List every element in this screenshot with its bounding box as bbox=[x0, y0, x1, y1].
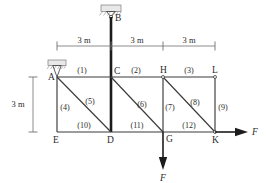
member-label-4: (4) bbox=[60, 103, 70, 112]
member-label-9: (9) bbox=[218, 103, 228, 112]
dim-label-span-1: 3 m bbox=[78, 35, 91, 45]
node-label-g: G bbox=[166, 134, 173, 144]
support-a-hatching bbox=[47, 66, 66, 70]
node-label-d: D bbox=[107, 135, 114, 145]
force-label-g: F bbox=[159, 173, 166, 183]
member-label-8: (8) bbox=[190, 98, 200, 107]
force-g-arrowhead bbox=[159, 157, 167, 170]
member-label-2: (2) bbox=[131, 66, 141, 75]
support-a-block bbox=[48, 60, 66, 66]
force-arrow-k-right bbox=[215, 128, 248, 136]
member-label-1: (1) bbox=[77, 66, 87, 75]
member-label-6: (6) bbox=[137, 100, 147, 109]
node-label-c: C bbox=[114, 66, 120, 76]
dim-label-height: 3 m bbox=[12, 99, 25, 109]
node-label-e: E bbox=[53, 135, 59, 145]
dim-label-span-3: 3 m bbox=[183, 35, 196, 45]
node-label-k: K bbox=[212, 135, 219, 145]
member-label-12: (12) bbox=[182, 121, 196, 130]
joint-h bbox=[162, 76, 165, 79]
vertical-dimension-line bbox=[29, 77, 38, 132]
node-label-l: L bbox=[212, 65, 218, 75]
joint-l bbox=[214, 76, 217, 79]
dim-label-span-2: 3 m bbox=[131, 35, 144, 45]
member-label-5: (5) bbox=[85, 97, 95, 106]
truss-figure: B 3 m 3 m 3 m 3 m bbox=[0, 0, 266, 183]
node-label-b: B bbox=[115, 13, 121, 23]
force-k-arrowhead bbox=[235, 128, 248, 136]
support-b-block bbox=[101, 5, 121, 12]
member-label-3: (3) bbox=[184, 66, 194, 75]
member-label-10: (10) bbox=[77, 121, 91, 130]
member-label-11: (11) bbox=[130, 121, 143, 130]
member-label-7: (7) bbox=[165, 103, 175, 112]
node-label-h: H bbox=[160, 65, 167, 75]
truss-diagram-canvas: B 3 m 3 m 3 m 3 m bbox=[0, 0, 266, 183]
force-label-k: F bbox=[251, 127, 258, 137]
node-label-a: A bbox=[48, 72, 55, 82]
